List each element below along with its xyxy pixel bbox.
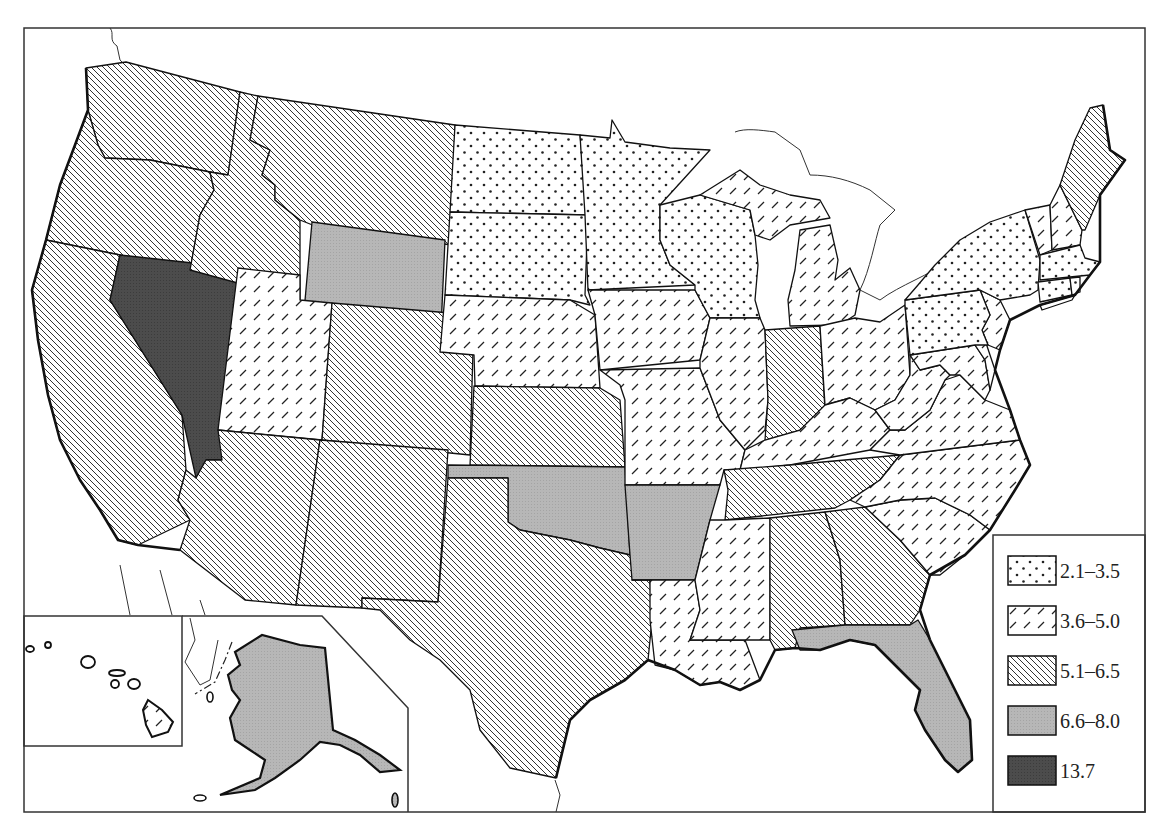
mexico-border-south xyxy=(555,780,560,812)
legend-label: 6.6–8.0 xyxy=(1060,710,1120,732)
legend-item-4: 6.6–8.0 xyxy=(1008,706,1120,735)
legend-item-3: 5.1–6.5 xyxy=(1008,656,1120,685)
state-south-dakota xyxy=(445,212,590,305)
state-michigan-lower xyxy=(788,225,860,326)
alaska-island xyxy=(194,795,206,801)
mexico-border-west xyxy=(120,565,205,615)
alaska-inset xyxy=(182,616,408,812)
hawaii-island-maui xyxy=(128,679,140,689)
state-alaska xyxy=(220,635,400,795)
legend-item-5: 13.7 xyxy=(1008,756,1095,785)
hawaii-island-kauai xyxy=(45,642,51,648)
legend-label: 3.6–5.0 xyxy=(1060,610,1120,632)
date-line xyxy=(195,642,232,694)
state-new-mexico xyxy=(296,440,448,608)
legend-swatch-back-hatch xyxy=(1008,656,1056,685)
state-florida xyxy=(792,620,972,772)
state-pennsylvania xyxy=(905,290,990,355)
legend-item-1: 2.1–3.5 xyxy=(1008,556,1120,585)
legend-swatch-light-gray xyxy=(1008,706,1056,735)
hawaii-island-oahu xyxy=(81,656,95,668)
legend-label: 13.7 xyxy=(1060,760,1095,782)
state-iowa xyxy=(588,290,710,370)
canada-coastline xyxy=(110,28,124,64)
alaska-island xyxy=(207,692,213,702)
alaska-island xyxy=(392,793,398,807)
legend-item-2: 3.6–5.0 xyxy=(1008,606,1120,635)
legend-swatch-dark-gray xyxy=(1008,756,1056,785)
state-north-dakota xyxy=(450,125,588,215)
hawaii-island-molokai xyxy=(109,670,125,676)
russia-outline xyxy=(185,618,218,685)
hawaii-island-niihau xyxy=(26,646,34,652)
legend-swatch-dots xyxy=(1008,556,1056,585)
legend-swatch-dashed-hatch xyxy=(1008,606,1056,635)
state-kansas xyxy=(470,386,625,467)
hawaii-island-lanai xyxy=(111,680,119,688)
hawaii-big-island xyxy=(143,700,173,737)
legend-label: 2.1–3.5 xyxy=(1060,560,1120,582)
legend: 2.1–3.5 3.6–5.0 5.1–6.5 6.6–8.0 13.7 xyxy=(993,535,1145,812)
us-choropleth-map: 2.1–3.5 3.6–5.0 5.1–6.5 6.6–8.0 13.7 xyxy=(0,0,1162,831)
states xyxy=(32,62,1125,778)
hawaii-inset xyxy=(24,616,182,746)
legend-label: 5.1–6.5 xyxy=(1060,660,1120,682)
state-new-york xyxy=(905,210,1040,300)
